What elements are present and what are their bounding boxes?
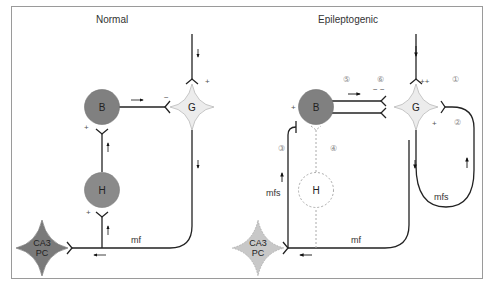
sign-double-minus: − − <box>373 85 385 94</box>
figure-frame <box>12 7 483 279</box>
granule-cell-label: G <box>188 102 196 113</box>
mfs-label-left: mfs <box>266 188 281 198</box>
panel-title-epileptogenic: Epileptogenic <box>318 14 378 25</box>
ca3-label-line2: PC <box>252 248 265 258</box>
sign-plus: + <box>291 103 296 112</box>
mf-label: mf <box>131 235 141 245</box>
sign-minus: − <box>164 93 169 102</box>
ca3-label-line2: PC <box>36 248 49 258</box>
mf-label: mf <box>351 235 361 245</box>
sign-plus: + <box>205 77 210 86</box>
hilar-cell-label: H <box>312 185 319 196</box>
label-number-6: ⑥ <box>377 75 384 84</box>
ca3-label-line1: CA3 <box>249 238 267 248</box>
mfs-label-right: mfs <box>434 192 449 202</box>
label-number-1: ① <box>452 75 459 84</box>
basket-cell-label: B <box>313 102 320 113</box>
ca3-label-line1: CA3 <box>33 238 51 248</box>
label-number-3: ③ <box>278 144 285 153</box>
label-number-4: ④ <box>330 144 337 153</box>
granule-cell-label: G <box>412 102 420 113</box>
basket-cell-label: B <box>99 102 106 113</box>
sign-plus: + <box>432 119 437 128</box>
sign-plus: + <box>86 208 91 217</box>
sign-double-plus: ++ <box>420 77 430 86</box>
hilar-cell-label: H <box>98 185 105 196</box>
circuit-diagram: Normal + − B G mf + H + <box>0 0 489 286</box>
label-number-2: ② <box>454 118 461 127</box>
label-number-5: ⑤ <box>343 75 350 84</box>
panel-title-normal: Normal <box>96 14 128 25</box>
sign-plus: + <box>84 123 89 132</box>
